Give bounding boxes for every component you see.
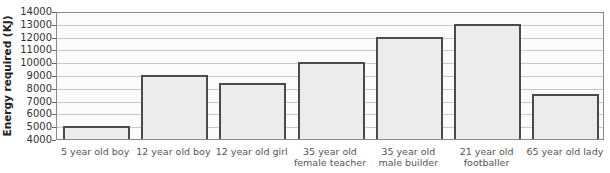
bar (219, 83, 286, 139)
x-tick-label: 12 year old girl (213, 146, 291, 157)
y-tick-mark (52, 140, 56, 141)
gridline (57, 38, 603, 39)
x-tick-label: 5 year old boy (56, 146, 134, 157)
gridline (57, 50, 603, 51)
y-tick-label: 12000 (0, 33, 52, 43)
bar (141, 75, 208, 139)
bar (454, 24, 521, 139)
bar (63, 126, 130, 139)
y-tick-label: 5000 (0, 122, 52, 132)
x-tick-label: 35 year old female teacher (291, 146, 369, 168)
y-tick-label: 10000 (0, 58, 52, 68)
x-tick-label: 21 year old footballer (447, 146, 525, 168)
y-tick-label: 11000 (0, 45, 52, 55)
plot-area (56, 12, 604, 140)
x-tick-label: 65 year old lady (526, 146, 604, 157)
x-tick-label: 12 year old boy (134, 146, 212, 157)
bar (298, 62, 365, 139)
y-tick-label: 7000 (0, 97, 52, 107)
y-tick-label: 8000 (0, 84, 52, 94)
gridline (57, 25, 603, 26)
bar (376, 37, 443, 139)
y-tick-label: 9000 (0, 71, 52, 81)
y-tick-label: 4000 (0, 135, 52, 145)
y-tick-label: 14000 (0, 7, 52, 17)
y-tick-label: 13000 (0, 20, 52, 30)
y-tick-label: 6000 (0, 109, 52, 119)
x-tick-label: 35 year old male builder (369, 146, 447, 168)
bar (532, 94, 599, 139)
